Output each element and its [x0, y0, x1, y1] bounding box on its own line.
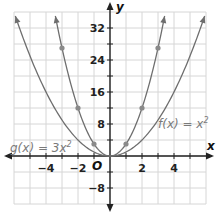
y-tick-label: 16	[90, 86, 106, 99]
f-function-label: f(x) = x2	[158, 116, 209, 131]
curve-arrow-icon	[200, 16, 206, 24]
x-axis-label: x	[206, 139, 216, 153]
y-tick-label: −8	[88, 182, 105, 195]
y-axis-down-arrow-icon	[107, 204, 114, 212]
x-tick-label: 4	[170, 162, 178, 175]
y-tick-label: 24	[90, 54, 106, 67]
origin-label: O	[92, 159, 102, 173]
x-tick-label: 2	[138, 162, 146, 175]
y-tick-label: 8	[97, 118, 105, 131]
axes	[4, 2, 214, 212]
curve-arrow-icon	[54, 16, 60, 23]
curve-arrow-icon	[15, 16, 21, 24]
data-point	[139, 105, 144, 110]
data-point	[59, 45, 64, 50]
y-axis-label: y	[116, 0, 125, 14]
y-axis-up-arrow-icon	[107, 2, 114, 10]
data-point	[75, 105, 80, 110]
x-axis-right-arrow-icon	[206, 153, 214, 160]
curve-arrow-icon	[160, 16, 166, 23]
data-point	[91, 141, 96, 146]
g-function-label: g(x) = 3x2	[10, 140, 72, 155]
y-tick-label: 32	[90, 22, 105, 35]
data-point	[155, 45, 160, 50]
graph: −4−2243224168−8 g(x) = 3x2 f(x) = x2 y x…	[0, 0, 219, 214]
x-tick-label: −4	[38, 162, 55, 175]
x-tick-label: −2	[70, 162, 87, 175]
data-point	[123, 141, 128, 146]
